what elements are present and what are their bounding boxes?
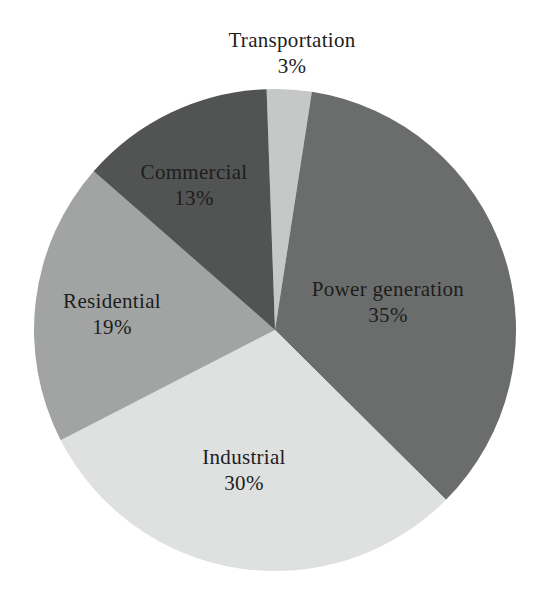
slice-label-name: Residential	[63, 289, 161, 313]
slice-label-percent: 30%	[224, 471, 263, 495]
slice-label-percent: 13%	[174, 186, 213, 210]
slice-label-percent: 3%	[278, 54, 307, 78]
pie-chart-figure: Transportation3%Power generation35%Indus…	[0, 0, 539, 596]
slice-label-transportation: Transportation3%	[228, 28, 355, 78]
slice-label-name: Transportation	[228, 28, 355, 52]
slice-label-name: Commercial	[141, 160, 248, 184]
pie-chart: Transportation3%Power generation35%Indus…	[0, 0, 539, 596]
slice-label-name: Industrial	[202, 445, 285, 469]
slice-label-percent: 19%	[92, 315, 131, 339]
slice-label-name: Power generation	[312, 277, 465, 301]
slice-label-percent: 35%	[368, 303, 407, 327]
